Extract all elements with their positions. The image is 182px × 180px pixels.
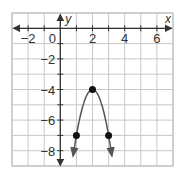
y-tick-label: −8 (40, 144, 55, 159)
x-tick-label: 4 (121, 31, 128, 46)
x-tick-label: −2 (21, 31, 36, 46)
data-point (89, 86, 96, 93)
x-tick-label: 6 (153, 31, 160, 46)
x-tick-label: 2 (89, 31, 96, 46)
right-arrow-icon (111, 150, 112, 155)
left-arrow-icon (73, 150, 74, 155)
y-tick-label: −4 (40, 83, 55, 98)
y-tick-label: −2 (40, 52, 55, 67)
x-tick-label: 0 (49, 31, 56, 46)
parabola-graph: −20246−2−4−6−8xy (0, 0, 182, 180)
y-axis-label: y (64, 12, 72, 26)
tick-labels: −20246−2−4−6−8xy (21, 12, 172, 159)
data-point (73, 132, 80, 139)
y-tick-label: −6 (40, 113, 55, 128)
x-axis-label: x (164, 12, 172, 26)
data-point (105, 132, 112, 139)
